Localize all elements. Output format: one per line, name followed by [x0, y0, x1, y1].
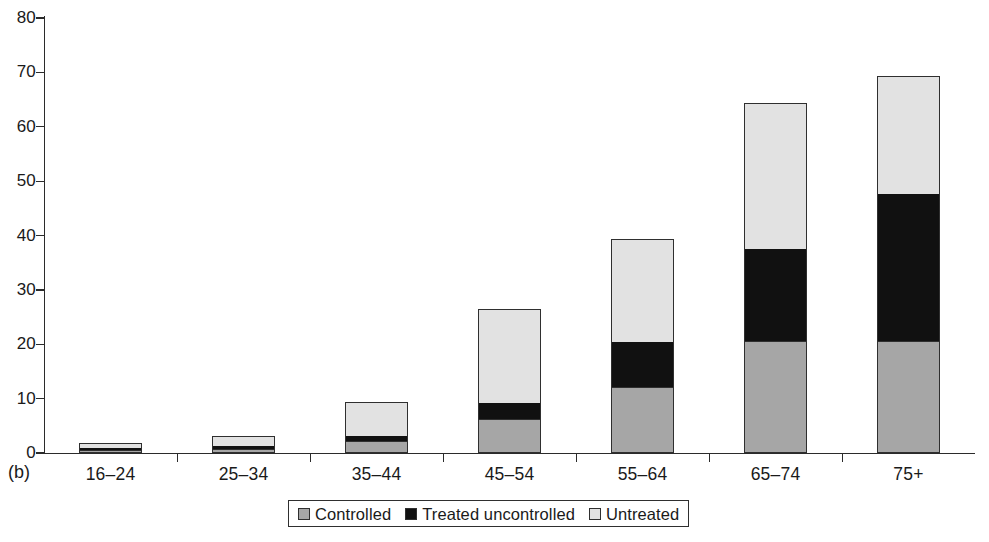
- x-tick-label-16-24: 16–24: [44, 464, 177, 484]
- legend-swatch-controlled: [298, 508, 310, 520]
- y-tick-80: [36, 17, 44, 18]
- bar-segment-controlled: [745, 341, 807, 453]
- y-tick-label-50: 50: [2, 172, 36, 189]
- bar-25-34: [212, 436, 276, 453]
- y-tick-70: [36, 72, 44, 73]
- panel-label: (b): [8, 462, 30, 482]
- x-tick-label-65-74: 65–74: [709, 464, 842, 484]
- x-tick-4: [576, 454, 577, 462]
- bar-segment-untreated: [745, 103, 807, 248]
- x-tick-2: [310, 454, 311, 462]
- bar-65-74: [744, 103, 808, 453]
- bar-segment-controlled: [80, 450, 142, 453]
- y-tick-10: [36, 398, 44, 399]
- chart-figure: 01020304050607080 16–2425–3435–4445–5455…: [0, 0, 989, 542]
- bar-segment-controlled: [479, 419, 541, 453]
- bar-55-64: [611, 239, 675, 453]
- y-tick-label-70: 70: [2, 63, 36, 80]
- x-tick-label-35-44: 35–44: [310, 464, 443, 484]
- chart-legend: ControlledTreated uncontrolledUntreated: [288, 500, 689, 527]
- bar-segment-controlled: [346, 441, 408, 453]
- legend-item-treated-uncontrolled: Treated uncontrolled: [405, 505, 575, 523]
- y-tick-30: [36, 289, 44, 290]
- y-tick-0: [36, 452, 44, 453]
- bar-segment-treated-uncontrolled: [878, 194, 940, 341]
- bar-segment-treated-uncontrolled: [612, 342, 674, 387]
- y-tick-50: [36, 181, 44, 182]
- legend-swatch-untreated: [589, 508, 601, 520]
- bar-segment-treated-uncontrolled: [745, 249, 807, 341]
- legend-label: Untreated: [606, 505, 679, 523]
- x-tick-label-45-54: 45–54: [443, 464, 576, 484]
- x-tick-label-75+: 75+: [842, 464, 975, 484]
- bar-segment-treated-uncontrolled: [479, 403, 541, 419]
- bar-segment-untreated: [213, 436, 275, 446]
- bar-segment-controlled: [213, 449, 275, 453]
- bar-segment-controlled: [878, 341, 940, 453]
- bar-segment-untreated: [479, 309, 541, 403]
- bar-16-24: [79, 443, 143, 453]
- legend-label: Controlled: [315, 505, 391, 523]
- y-tick-60: [36, 126, 44, 127]
- legend-swatch-treated-uncontrolled: [405, 508, 417, 520]
- x-tick-1: [177, 454, 178, 462]
- legend-item-controlled: Controlled: [298, 505, 391, 523]
- x-tick-3: [443, 454, 444, 462]
- bar-segment-untreated: [612, 239, 674, 342]
- x-tick-label-25-34: 25–34: [177, 464, 310, 484]
- y-tick-20: [36, 344, 44, 345]
- y-tick-label-30: 30: [2, 281, 36, 298]
- y-tick-label-60: 60: [2, 118, 36, 135]
- y-tick-40: [36, 235, 44, 236]
- legend-item-untreated: Untreated: [589, 505, 679, 523]
- bar-35-44: [345, 402, 409, 453]
- y-tick-label-20: 20: [2, 335, 36, 352]
- x-tick-label-55-64: 55–64: [576, 464, 709, 484]
- bar-segment-untreated: [878, 76, 940, 195]
- bar-segment-untreated: [346, 402, 408, 435]
- bar-75+: [877, 76, 941, 453]
- y-tick-label-0: 0: [2, 444, 36, 461]
- x-tick-5: [709, 454, 710, 462]
- y-tick-label-40: 40: [2, 227, 36, 244]
- y-tick-label-10: 10: [2, 390, 36, 407]
- plot-area: [44, 18, 975, 453]
- bar-45-54: [478, 309, 542, 453]
- y-tick-label-80: 80: [2, 9, 36, 26]
- x-tick-6: [842, 454, 843, 462]
- legend-label: Treated uncontrolled: [422, 505, 575, 523]
- bar-segment-controlled: [612, 387, 674, 453]
